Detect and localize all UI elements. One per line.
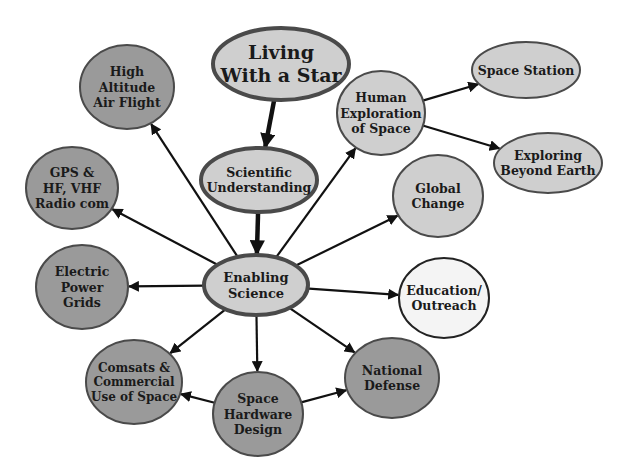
node-label: Defense	[364, 378, 420, 393]
edge-enabling-to-defense	[288, 307, 355, 353]
node-beyond: ExploringBeyond Earth	[494, 133, 602, 193]
node-defense: NationalDefense	[345, 338, 439, 418]
node-label: Education/	[406, 283, 482, 298]
edge-hardware-to-defense	[299, 390, 346, 403]
node-hardware: SpaceHardwareDesign	[213, 372, 303, 456]
node-label: Power	[61, 280, 104, 295]
node-label: National	[362, 363, 423, 378]
edge-enabling-to-gps	[112, 209, 219, 265]
node-label: Radio com	[35, 196, 109, 211]
node-label: Scientific	[226, 165, 292, 180]
node-label: Hardware	[224, 407, 293, 422]
node-label: Change	[412, 196, 465, 211]
node-label: GPS &	[50, 165, 95, 180]
node-label: Human	[355, 90, 406, 105]
node-education: Education/Outreach	[399, 258, 489, 338]
edge-enabling-to-global	[294, 216, 398, 267]
node-electric: ElectricPowerGrids	[36, 245, 128, 329]
node-label: Understanding	[207, 180, 312, 195]
node-label: High	[110, 64, 144, 79]
node-gps: GPS &HF, VHFRadio com	[26, 147, 118, 229]
node-label: Space	[237, 391, 278, 406]
node-label: Air Flight	[92, 95, 161, 110]
node-human: HumanExplorationof Space	[337, 71, 425, 155]
node-label: Commercial	[93, 375, 175, 389]
edge-enabling-to-comsats	[170, 308, 227, 353]
node-station: Space Station	[472, 42, 580, 98]
node-label: HF, VHF	[43, 181, 102, 196]
node-scientific: ScientificUnderstanding	[201, 148, 317, 212]
node-label: Living	[248, 41, 314, 63]
node-label: Altitude	[98, 80, 156, 95]
node-label: Science	[228, 286, 284, 301]
node-label: Use of Space	[91, 390, 178, 404]
node-living: LivingWith a Star	[213, 28, 349, 100]
node-enabling: EnablingScience	[204, 255, 308, 315]
node-label: Exploring	[514, 148, 582, 163]
node-global: GlobalChange	[393, 155, 483, 237]
edge-human-to-station	[421, 84, 478, 101]
node-label: Beyond Earth	[500, 163, 595, 178]
node-label: Exploration	[340, 106, 421, 121]
living-with-a-star-diagram: LivingWith a StarScientificUnderstanding…	[0, 0, 630, 474]
node-label: Design	[234, 422, 282, 437]
node-label: of Space	[351, 121, 411, 136]
edge-hardware-to-comsats	[181, 394, 217, 403]
node-label: Enabling	[223, 270, 288, 285]
node-label: Global	[415, 181, 461, 196]
edge-enabling-to-education	[306, 288, 399, 294]
edge-human-to-beyond	[421, 125, 499, 148]
node-label: Outreach	[411, 298, 476, 313]
edge-scientific-to-enabling	[257, 210, 258, 254]
node-label: With a Star	[219, 64, 342, 86]
node-label: Comsats &	[98, 361, 170, 375]
edge-enabling-to-hardware	[256, 313, 257, 371]
node-label: Grids	[63, 295, 101, 310]
edge-enabling-to-electric	[129, 286, 206, 287]
node-label: Space Station	[478, 63, 575, 78]
node-layer: LivingWith a StarScientificUnderstanding…	[26, 28, 602, 456]
node-high-altitude: HighAltitudeAir Flight	[80, 45, 174, 129]
node-comsats: Comsats &CommercialUse of Space	[86, 340, 182, 424]
node-label: Electric	[55, 264, 110, 279]
edge-living-to-scientific	[265, 98, 274, 147]
